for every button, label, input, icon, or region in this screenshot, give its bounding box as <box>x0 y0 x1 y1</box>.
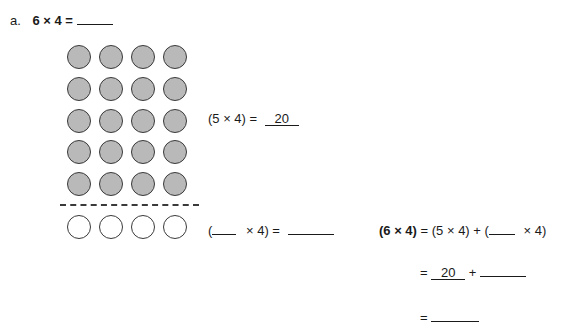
dashed-divider <box>60 204 199 206</box>
equation-rest: × 4) = <box>246 223 280 238</box>
distributive-lhs: (6 × 4) <box>379 223 417 238</box>
answer-blank[interactable] <box>77 12 113 25</box>
multiplier-blank[interactable] <box>212 222 236 235</box>
filled-circle <box>67 77 91 101</box>
equation-five-rows: (5 × 4) = 20 <box>208 111 299 126</box>
filled-circle <box>67 109 91 133</box>
filled-circle <box>163 172 187 196</box>
filled-circle <box>99 140 123 164</box>
product-blank[interactable] <box>288 222 334 235</box>
filled-circle <box>131 109 155 133</box>
filled-circle <box>67 45 91 69</box>
distributive-line-2: = 20 + <box>420 264 526 280</box>
problem-header: a. 6 × 4 = <box>10 12 113 28</box>
equation-left: (5 × 4) = <box>208 111 257 126</box>
filled-circle <box>131 77 155 101</box>
filled-circle <box>67 140 91 164</box>
empty-circle <box>163 215 187 239</box>
equation-answer[interactable]: 20 <box>265 113 299 126</box>
filled-circle <box>99 77 123 101</box>
empty-circle <box>99 215 123 239</box>
distributive-line-3: = <box>420 309 479 325</box>
distributive-equation: (6 × 4) = (5 × 4) + ( × 4) <box>379 222 546 238</box>
filled-circle <box>99 109 123 133</box>
distributive-tail: × 4) <box>523 223 546 238</box>
filled-circle <box>163 77 187 101</box>
plus-sign: + <box>469 265 477 280</box>
filled-circle <box>67 172 91 196</box>
problem-label: a. <box>10 13 21 28</box>
final-answer-blank[interactable] <box>431 309 479 322</box>
filled-circle <box>131 45 155 69</box>
filled-circle <box>99 172 123 196</box>
line2-value[interactable]: 20 <box>431 267 465 280</box>
equation-one-row: ( × 4) = <box>208 222 334 238</box>
filled-circle <box>131 172 155 196</box>
equals-sign: = <box>420 310 428 325</box>
filled-circle <box>163 45 187 69</box>
filled-circle <box>163 109 187 133</box>
distributive-rhs: = (5 × 4) + ( <box>421 223 489 238</box>
empty-circle <box>131 215 155 239</box>
problem-prompt: 6 × 4 = <box>32 13 72 28</box>
filled-circle <box>131 140 155 164</box>
distributive-blank[interactable] <box>489 222 515 235</box>
filled-circle <box>99 45 123 69</box>
empty-circle <box>67 215 91 239</box>
filled-circle <box>163 140 187 164</box>
line2-blank[interactable] <box>480 264 526 277</box>
equals-sign: = <box>420 265 428 280</box>
